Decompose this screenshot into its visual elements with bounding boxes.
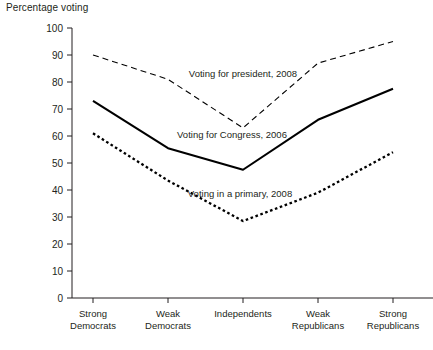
x-axis-ticks bbox=[93, 298, 393, 303]
x-axis-label: Weak bbox=[156, 308, 180, 319]
x-axis-label: Republicans bbox=[292, 320, 345, 331]
series-annotation-1: Voting for president, 2008 bbox=[189, 68, 297, 79]
x-axis-label: Democrats bbox=[145, 320, 191, 331]
x-axis-label: Weak bbox=[306, 308, 330, 319]
y-tick-label: 60 bbox=[52, 131, 64, 142]
x-axis-label: Republicans bbox=[367, 320, 420, 331]
chart-plot-area: 0102030405060708090100 Voting for presid… bbox=[0, 0, 433, 350]
y-tick-label: 0 bbox=[57, 293, 63, 304]
series-line-3 bbox=[93, 133, 393, 221]
x-axis-label: Strong bbox=[79, 308, 107, 319]
series-annotation-2: Voting for Congress, 2006 bbox=[177, 129, 287, 140]
series-line-1 bbox=[93, 42, 393, 128]
y-tick-label: 50 bbox=[52, 158, 64, 169]
chart-container: Percentage voting 0102030405060708090100… bbox=[0, 0, 433, 350]
x-axis-label: Democrats bbox=[70, 320, 116, 331]
y-tick-label: 90 bbox=[52, 50, 64, 61]
y-tick-label: 10 bbox=[52, 266, 64, 277]
y-tick-label: 30 bbox=[52, 212, 64, 223]
y-tick-label: 40 bbox=[52, 185, 64, 196]
series-annotation-3: Voting in a primary, 2008 bbox=[188, 188, 292, 199]
y-tick-label: 100 bbox=[46, 23, 63, 34]
y-axis-ticks: 0102030405060708090100 bbox=[46, 23, 72, 304]
y-tick-label: 70 bbox=[52, 104, 64, 115]
x-axis-label: Independents bbox=[214, 308, 272, 319]
y-tick-label: 20 bbox=[52, 239, 64, 250]
x-axis-label: Strong bbox=[379, 308, 407, 319]
y-tick-label: 80 bbox=[52, 77, 64, 88]
series-label-group: Voting for president, 2008Voting for Con… bbox=[177, 68, 297, 199]
x-axis-label-group: StrongDemocratsWeakDemocratsIndependents… bbox=[70, 308, 419, 331]
